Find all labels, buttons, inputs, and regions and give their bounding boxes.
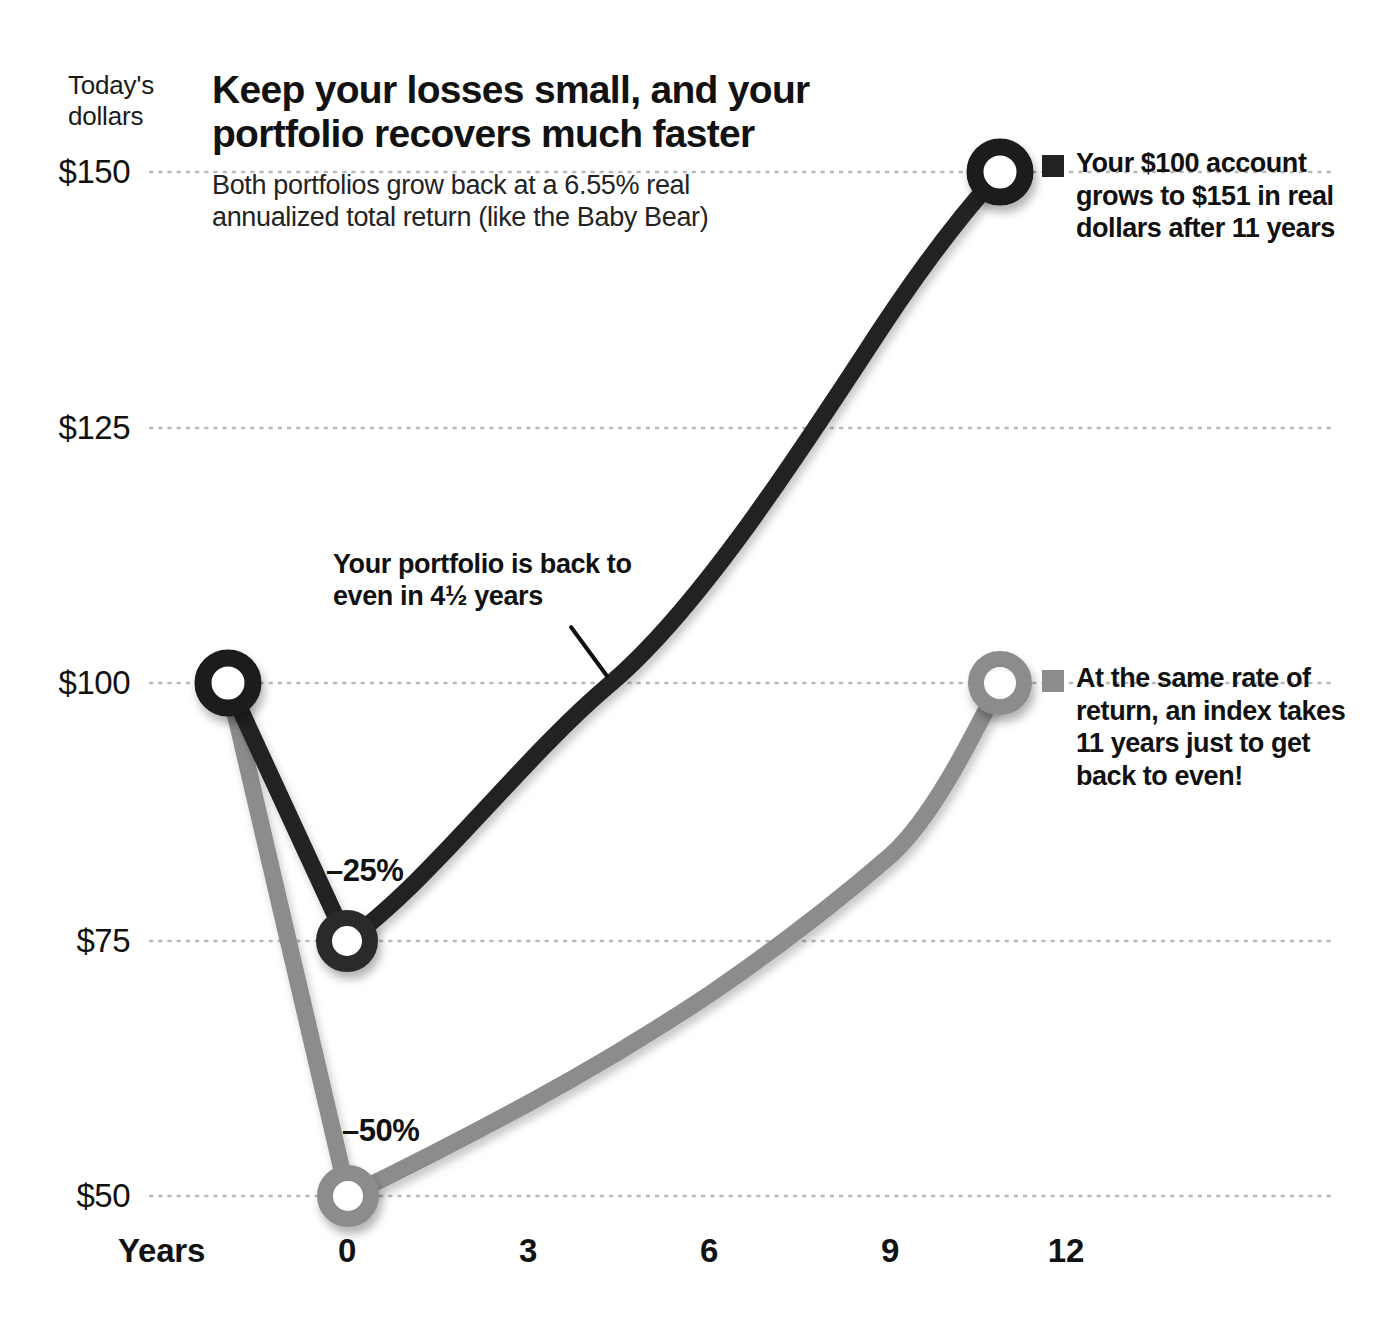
legend-item-index: At the same rate of return, an index tak… bbox=[1042, 662, 1372, 793]
annotation-recovery-note: Your portfolio is back to even in 4½ yea… bbox=[333, 548, 633, 613]
x-tick-label-9: 9 bbox=[881, 1232, 899, 1270]
legend-swatch-gray-icon bbox=[1042, 670, 1064, 692]
x-tick-label-0: 0 bbox=[338, 1232, 356, 1270]
y-tick-label-50: $50 bbox=[0, 1177, 130, 1215]
legend-label-your-account: Your $100 account grows to $151 in real … bbox=[1076, 147, 1372, 245]
y-tick-label-75: $75 bbox=[0, 922, 130, 960]
marker-gray-end-100 bbox=[976, 659, 1024, 707]
x-axis-title: Years bbox=[118, 1232, 205, 1270]
y-tick-label-125: $125 bbox=[0, 409, 130, 447]
marker-black-trough-75 bbox=[324, 918, 370, 964]
marker-black-end-151 bbox=[975, 147, 1025, 197]
y-tick-label-150: $150 bbox=[0, 153, 130, 191]
annotation-drawdown-gray: –50% bbox=[342, 1113, 419, 1149]
annotation-leader-line bbox=[571, 627, 607, 676]
legend-swatch-black-icon bbox=[1042, 155, 1064, 177]
legend-label-index: At the same rate of return, an index tak… bbox=[1076, 662, 1372, 793]
marker-start-100 bbox=[203, 658, 253, 708]
x-tick-label-3: 3 bbox=[519, 1232, 537, 1270]
marker-gray-trough-50 bbox=[325, 1173, 371, 1219]
chart-page: Today'sdollars Keep your losses small, a… bbox=[0, 0, 1392, 1341]
y-tick-label-100: $100 bbox=[0, 664, 130, 702]
legend-item-your-account: Your $100 account grows to $151 in real … bbox=[1042, 147, 1372, 245]
x-tick-label-6: 6 bbox=[700, 1232, 718, 1270]
annotation-drawdown-black: –25% bbox=[326, 853, 403, 889]
x-tick-label-12: 12 bbox=[1048, 1232, 1084, 1270]
